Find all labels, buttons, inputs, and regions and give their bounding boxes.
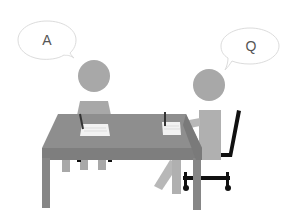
person-right-torso xyxy=(199,110,221,160)
person-left-head xyxy=(78,60,110,92)
person-right-head xyxy=(193,69,225,101)
bubble-question-text: Q xyxy=(246,38,257,54)
person-left xyxy=(76,60,112,120)
bubble-answer-text: A xyxy=(42,32,52,48)
chair-base xyxy=(183,176,230,180)
table-leg-right xyxy=(193,158,201,210)
chair-wheel-right xyxy=(225,185,231,191)
person-right-legs xyxy=(154,160,181,194)
chair-wheel-left xyxy=(183,185,189,191)
table-leg-left xyxy=(42,158,50,208)
paper-left xyxy=(80,124,110,136)
table-front-edge xyxy=(42,148,202,160)
speech-bubble-answer: A xyxy=(18,21,76,59)
interview-illustration: A Q xyxy=(0,0,297,218)
speech-bubble-question: Q xyxy=(221,28,279,70)
